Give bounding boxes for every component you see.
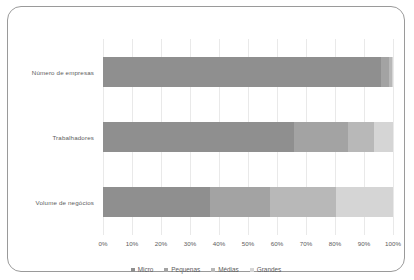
bar-segment [294, 122, 348, 152]
bar-segment [270, 187, 337, 217]
bar-segment [392, 57, 393, 87]
bar-segment [103, 187, 210, 217]
legend-swatch-icon [250, 268, 254, 272]
chart-frame: Número de empresasTrabalhadoresVolume de… [7, 6, 405, 272]
axis-tick-label: 30% [184, 240, 196, 247]
axis-tick-label: 60% [271, 240, 283, 247]
category-label: Trabalhadores [52, 134, 94, 141]
axis-tick-label: 70% [300, 240, 312, 247]
axis-tick-label: 80% [329, 240, 341, 247]
legend-item[interactable]: Médias [211, 266, 239, 273]
legend-item[interactable]: Grandes [250, 266, 282, 273]
legend-label: Micro [138, 266, 154, 273]
category-label: Volume de negócios [36, 199, 94, 206]
bar-row [103, 122, 393, 152]
axis-tick-label: 0% [99, 240, 108, 247]
legend-label: Médias [218, 266, 239, 273]
bar-segment [374, 122, 393, 152]
legend-item[interactable]: Pequenas [164, 266, 200, 273]
axis-tick-label: 10% [126, 240, 138, 247]
legend-label: Pequenas [171, 266, 200, 273]
bar-segment [348, 122, 374, 152]
bar-row [103, 57, 393, 87]
axis-tick-label: 20% [155, 240, 167, 247]
axis-tick-label: 90% [358, 240, 370, 247]
plot-area: Número de empresasTrabalhadoresVolume de… [103, 39, 393, 235]
legend-item[interactable]: Micro [131, 266, 154, 273]
x-axis: 0%10%20%30%40%50%60%70%80%90%100% [103, 240, 393, 252]
gridline [393, 39, 394, 235]
legend-label: Grandes [257, 266, 282, 273]
bar-row [103, 187, 393, 217]
bar-segment [103, 122, 294, 152]
bar-segment [103, 57, 381, 87]
chart-legend: MicroPequenasMédiasGrandes [8, 266, 404, 273]
bar-segment [210, 187, 269, 217]
category-label: Número de empresas [32, 68, 94, 75]
axis-tick-label: 100% [385, 240, 401, 247]
legend-swatch-icon [164, 268, 168, 272]
axis-tick-label: 50% [242, 240, 254, 247]
bar-segment [381, 57, 389, 87]
legend-swatch-icon [131, 268, 135, 272]
legend-swatch-icon [211, 268, 215, 272]
bar-segment [336, 187, 393, 217]
axis-tick-label: 40% [213, 240, 225, 247]
